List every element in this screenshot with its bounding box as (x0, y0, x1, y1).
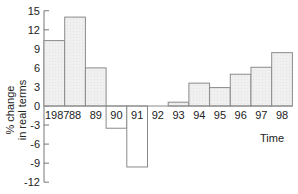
y-tick-label: 9 (34, 43, 40, 55)
bar-88 (65, 17, 86, 106)
y-tick-label: -3 (30, 119, 40, 131)
y-tick-label: 3 (34, 81, 40, 93)
y-axis-title-line: % change (4, 86, 16, 135)
x-tick-label: 1987 (45, 109, 69, 121)
x-tick-label: 98 (276, 109, 288, 121)
x-tick-label: 97 (255, 109, 267, 121)
x-tick-label: 94 (193, 109, 205, 121)
bar-chart: 15129630-3-6-9-12 1987888990919293949596… (0, 0, 298, 194)
x-tick-label: 96 (235, 109, 247, 121)
bar-1987 (44, 41, 65, 106)
x-axis-labels: 19878889909192939495969798 (45, 109, 288, 121)
x-tick-label: 93 (172, 109, 184, 121)
y-tick-label: -6 (30, 138, 40, 150)
x-tick-label: 88 (69, 109, 81, 121)
x-tick-label: 90 (110, 109, 122, 121)
bar-89 (85, 68, 106, 106)
bar-98 (272, 53, 293, 106)
x-tick-label: 91 (131, 109, 143, 121)
x-tick-label: 92 (152, 109, 164, 121)
y-tick-label: 0 (34, 100, 40, 112)
y-tick-label: -12 (24, 176, 40, 188)
bars (44, 17, 292, 167)
bar-93 (168, 102, 189, 106)
x-tick-label: 95 (214, 109, 226, 121)
x-tick-label: 89 (90, 109, 102, 121)
y-axis-title: % changein real terms (4, 79, 28, 140)
x-axis-title: Time (260, 132, 284, 144)
bar-94 (189, 83, 210, 106)
y-tick-label: 15 (28, 5, 40, 17)
bar-96 (230, 74, 251, 106)
y-tick-label: -9 (30, 157, 40, 169)
y-tick-label: 12 (28, 24, 40, 36)
y-axis-title-line: in real terms (16, 79, 28, 140)
y-tick-label: 6 (34, 62, 40, 74)
bar-97 (251, 67, 272, 106)
bar-95 (210, 88, 231, 106)
